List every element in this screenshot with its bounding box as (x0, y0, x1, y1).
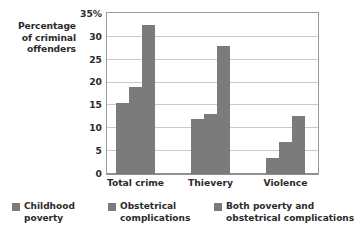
y-axis-tick-labels: 05101520253035% (68, 12, 102, 175)
x-axis-tick-label: Violence (241, 177, 331, 188)
bar-group (191, 12, 230, 175)
bar-group (266, 12, 305, 175)
bar[interactable] (142, 25, 155, 174)
y-axis-title-line-3: offenders (2, 43, 76, 55)
legend-label: Obstetricalcomplications (120, 201, 190, 224)
legend-swatch-icon (108, 203, 116, 211)
legend-item[interactable]: Both poverty andobstetrical complication… (214, 201, 354, 224)
y-axis-tick-label: 10 (68, 123, 102, 132)
legend-item[interactable]: Childhoodpoverty (12, 201, 75, 224)
legend-label-line: obstetrical complications (226, 213, 354, 225)
y-axis-tick-label: 5 (68, 146, 102, 155)
y-axis-tick-label: 30 (68, 32, 102, 41)
y-axis-title-line-2: of criminal (2, 32, 76, 44)
chart-legend: ChildhoodpovertyObstetricalcomplications… (12, 201, 338, 235)
bar[interactable] (191, 119, 204, 174)
bar[interactable] (292, 116, 305, 173)
legend-label: Both poverty andobstetrical complication… (226, 201, 354, 224)
y-axis-title-line-1: Percentage (2, 20, 76, 32)
y-axis-tick-label: 25 (68, 55, 102, 64)
bar[interactable] (279, 142, 292, 174)
bars-layer (106, 12, 319, 175)
y-axis-title: Percentage of criminal offenders (2, 20, 76, 55)
legend-label-line: Childhood (24, 201, 75, 213)
bar[interactable] (204, 114, 217, 173)
bar[interactable] (116, 103, 129, 174)
legend-swatch-icon (214, 203, 222, 211)
y-axis-tick-label: 20 (68, 77, 102, 86)
legend-swatch-icon (12, 203, 20, 211)
legend-label-line: poverty (24, 213, 75, 225)
bar[interactable] (217, 46, 230, 174)
y-axis-tick-label: 15 (68, 100, 102, 109)
bar[interactable] (266, 158, 279, 174)
legend-label-line: Obstetrical (120, 201, 190, 213)
y-axis-tick-label: 35% (68, 9, 102, 18)
bar-group (116, 12, 155, 175)
legend-label: Childhoodpoverty (24, 201, 75, 224)
legend-label-line: Both poverty and (226, 201, 354, 213)
legend-label-line: complications (120, 213, 190, 225)
bar[interactable] (129, 87, 142, 174)
legend-item[interactable]: Obstetricalcomplications (108, 201, 190, 224)
x-axis-tick-labels: Total crimeThieveryViolence (106, 177, 319, 191)
